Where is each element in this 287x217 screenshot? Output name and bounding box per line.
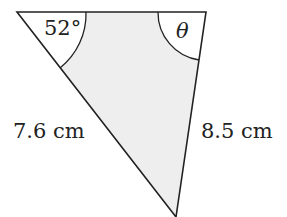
angle-label-theta: θ <box>176 21 189 42</box>
side-label-left: 7.6 cm <box>13 121 85 142</box>
side-label-right: 8.5 cm <box>201 121 273 142</box>
angle-label-52: 52° <box>44 18 81 39</box>
